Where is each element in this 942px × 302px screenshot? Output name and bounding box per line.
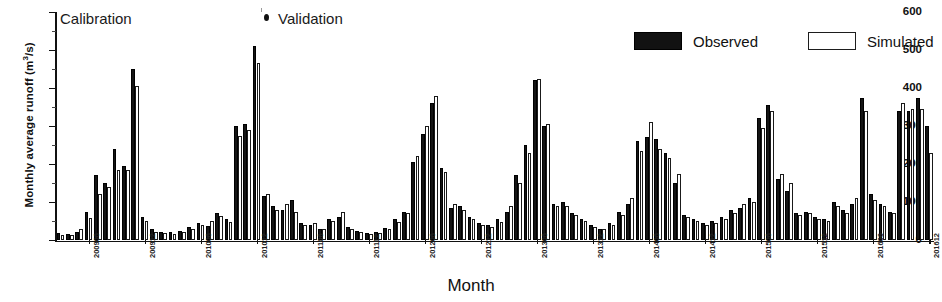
x-tick-label-201306: 201306 — [540, 233, 549, 258]
bar-simulated-201010 — [238, 136, 242, 241]
x-tick-label-201206: 201206 — [428, 233, 437, 258]
validation-marker-dot — [264, 14, 269, 21]
x-tick-label-201212: 201212 — [484, 233, 493, 258]
bar-simulated-201109 — [341, 212, 345, 241]
x-tick-201512 — [817, 240, 818, 244]
bar-simulated-201509 — [789, 183, 793, 240]
x-tick-label-201112: 201112 — [372, 234, 381, 258]
y-tick-100 — [49, 202, 56, 203]
x-tick-label-200912: 200912 — [148, 233, 157, 258]
bar-simulated-201311 — [584, 221, 588, 240]
bar-simulated-201608 — [892, 213, 896, 240]
runoff-bar-chart: Monthly average runoff (m3/s) 0100200300… — [0, 0, 942, 302]
legend-item-observed: Observed — [634, 32, 758, 50]
y-tick-minor — [52, 69, 56, 70]
plot-area: 0100200300400500600 20090620091220100620… — [56, 12, 934, 240]
bar-simulated-201210 — [462, 210, 466, 240]
y-tick-minor — [52, 183, 56, 184]
bar-simulated-201609 — [901, 103, 905, 240]
y-tick-label-400: 400 — [888, 81, 922, 93]
y-tick-600 — [49, 12, 56, 13]
bar-simulated-201005 — [191, 229, 195, 240]
bar-simulated-201008 — [219, 216, 223, 240]
bar-simulated-201502 — [724, 219, 728, 240]
bar-simulated-201105 — [303, 225, 307, 240]
bar-simulated-201203 — [397, 222, 401, 240]
bar-simulated-201205 — [416, 156, 420, 240]
y-tick-minor — [52, 145, 56, 146]
y-axis-title-text: Monthly average runoff (m3/s) — [23, 42, 35, 207]
bar-simulated-200903 — [61, 235, 65, 240]
bar-simulated-201202 — [388, 229, 392, 240]
bar-simulated-201404 — [630, 198, 634, 240]
bar-simulated-201406 — [649, 122, 653, 240]
x-tick-label-201006: 201006 — [204, 233, 213, 258]
bar-simulated-201209 — [453, 204, 457, 240]
bar-simulated-201102 — [275, 210, 279, 240]
bar-simulated-201603 — [845, 213, 849, 240]
bar-simulated-201510 — [798, 215, 802, 240]
bar-simulated-201507 — [770, 111, 774, 240]
bar-simulated-201012 — [257, 63, 261, 240]
bar-simulated-201310 — [574, 215, 578, 240]
bar-simulated-201002 — [163, 233, 167, 240]
bar-simulated-201504 — [742, 204, 746, 240]
bar-simulated-201402 — [612, 225, 616, 240]
bar-simulated-201511 — [808, 213, 812, 240]
bar-simulated-201508 — [780, 174, 784, 241]
y-tick-label-600: 600 — [888, 5, 922, 17]
x-tick-201212 — [481, 240, 482, 244]
x-tick-label-201406: 201406 — [652, 233, 661, 258]
legend-item-simulated: Simulated — [808, 32, 934, 50]
bar-simulated-200909 — [117, 170, 121, 240]
bar-simulated-201307 — [546, 124, 550, 240]
bar-simulated-201009 — [229, 222, 233, 240]
y-tick-400 — [49, 88, 56, 89]
bar-simulated-201104 — [294, 212, 298, 241]
bar-simulated-201303 — [509, 206, 513, 240]
x-tick-201106 — [313, 240, 314, 244]
x-tick-201606 — [873, 240, 874, 244]
x-tick-label-201512: 201512 — [820, 233, 829, 258]
x-axis-line — [55, 241, 934, 242]
bar-simulated-201309 — [565, 206, 569, 240]
calibration-validation-divider — [261, 8, 262, 240]
bar-simulated-201411 — [696, 221, 700, 240]
bar-simulated-201604 — [855, 198, 859, 240]
bar-simulated-200911 — [135, 86, 139, 240]
bar-simulated-201004 — [182, 232, 186, 240]
bar-simulated-201003 — [173, 234, 177, 240]
x-tick-label-201506: 201506 — [764, 233, 773, 258]
bar-simulated-201306 — [537, 79, 541, 241]
bar-simulated-201108 — [331, 221, 335, 240]
bar-simulated-200904 — [70, 235, 74, 240]
y-axis-unit-exponent: 3 — [21, 56, 30, 61]
bar-simulated-201110 — [350, 229, 354, 240]
x-tick-201012 — [257, 240, 258, 244]
bar-simulated-201405 — [640, 151, 644, 240]
bar-simulated-201610 — [911, 109, 915, 240]
x-tick-label-200906: 200906 — [92, 233, 101, 258]
x-tick-201312 — [593, 240, 594, 244]
y-tick-300 — [49, 126, 56, 127]
bar-simulated-201011 — [247, 130, 251, 240]
legend-swatch-observed — [634, 32, 682, 50]
bar-simulated-201503 — [733, 213, 737, 240]
validation-annotation: Validation — [278, 10, 343, 27]
x-tick-label-201412: 201412 — [708, 233, 717, 258]
x-tick-201506 — [761, 240, 762, 244]
x-tick-201306 — [537, 240, 538, 244]
x-tick-201406 — [649, 240, 650, 244]
bar-simulated-201103 — [285, 204, 289, 240]
bar-simulated-201211 — [472, 219, 476, 240]
bar-simulated-201204 — [406, 213, 410, 240]
bar-simulated-201605 — [864, 111, 868, 240]
y-tick-500 — [49, 50, 56, 51]
x-tick-label-201106: 201106 — [316, 233, 325, 258]
y-tick-minor — [52, 107, 56, 108]
x-tick-200912 — [145, 240, 146, 244]
x-tick-201206 — [425, 240, 426, 244]
bar-simulated-201308 — [556, 206, 560, 240]
bar-simulated-201602 — [836, 206, 840, 240]
bar-simulated-201111 — [359, 232, 363, 240]
